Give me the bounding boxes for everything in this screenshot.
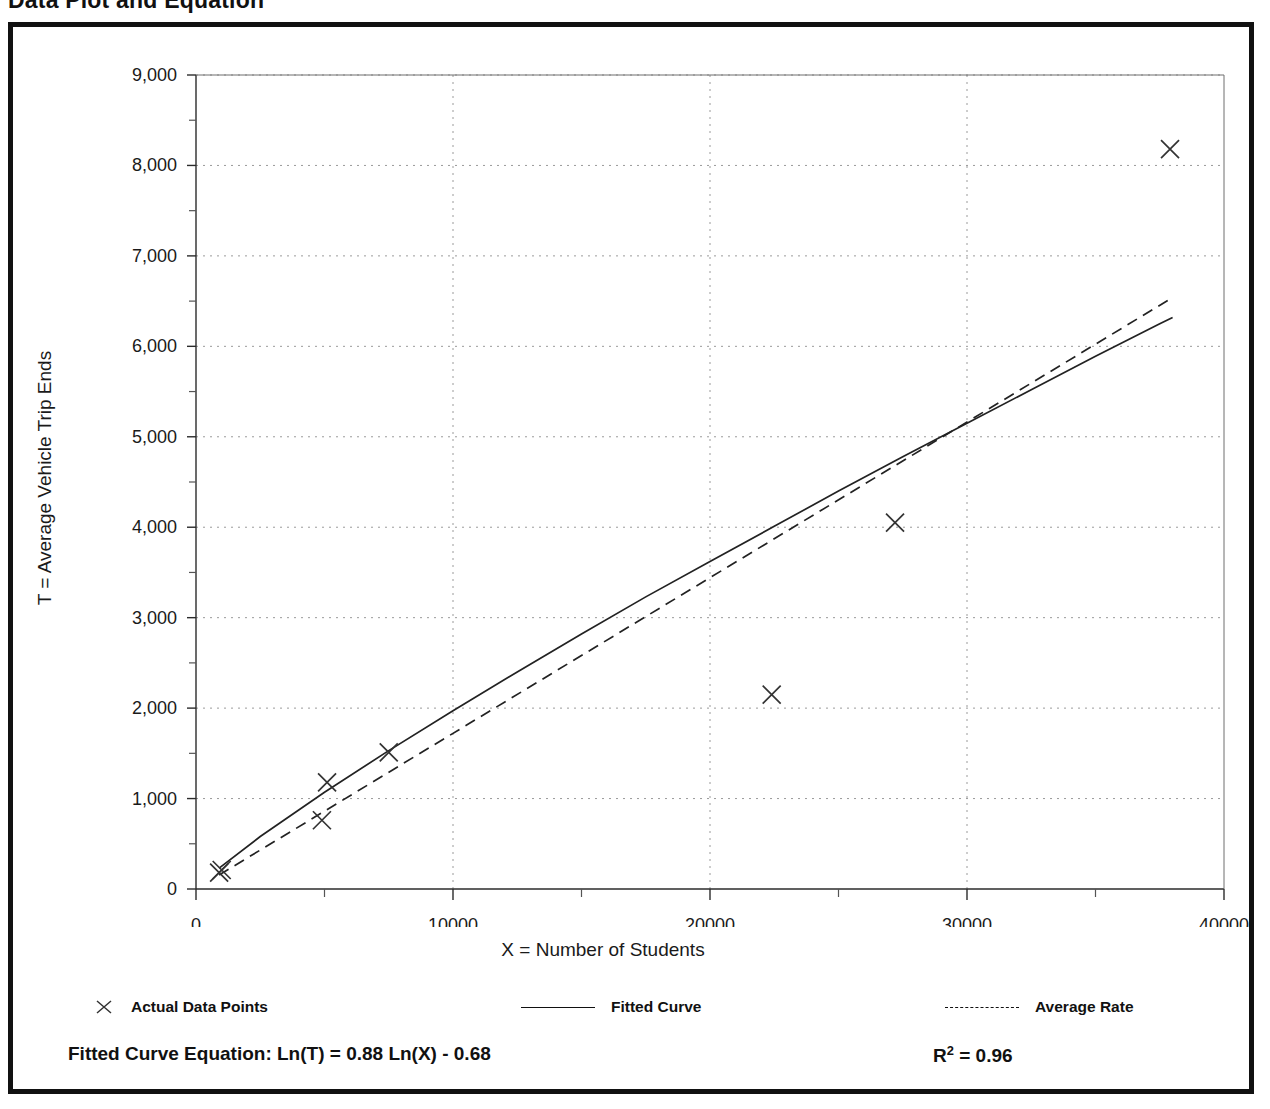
r-squared-value: R2 = 0.96: [933, 1043, 1013, 1067]
axis-ticks: [187, 75, 1224, 900]
page-title: Data Plot and Equation: [8, 0, 264, 14]
series-actual-data-points: [210, 140, 1179, 882]
solid-line-icon: [521, 998, 595, 1016]
legend-label: Average Rate: [1035, 998, 1134, 1016]
scatter-plot: 01,0002,0003,0004,0005,0006,0007,0008,00…: [13, 27, 1259, 927]
svg-text:20000: 20000: [685, 915, 735, 927]
svg-text:30000: 30000: [942, 915, 992, 927]
r-squared-number: = 0.96: [954, 1045, 1013, 1066]
chart-area: 01,0002,0003,0004,0005,0006,0007,0008,00…: [13, 27, 1259, 1099]
series-average-rate: [219, 297, 1172, 874]
legend-label: Fitted Curve: [611, 998, 701, 1016]
y-axis-tick-labels: 01,0002,0003,0004,0005,0006,0007,0008,00…: [132, 65, 177, 899]
svg-text:0: 0: [167, 879, 177, 899]
svg-text:9,000: 9,000: [132, 65, 177, 85]
svg-text:0: 0: [191, 915, 201, 927]
chart-legend: Actual Data Points Fitted Curve Average …: [13, 993, 1259, 1027]
legend-item-fitted-curve: Fitted Curve: [521, 993, 701, 1021]
equation-row: Fitted Curve Equation: Ln(T) = 0.88 Ln(X…: [13, 1043, 1259, 1083]
svg-text:10000: 10000: [428, 915, 478, 927]
svg-text:8,000: 8,000: [132, 155, 177, 175]
gridlines: [196, 75, 1224, 889]
legend-label: Actual Data Points: [131, 998, 268, 1016]
r-squared-symbol: R: [933, 1045, 947, 1066]
svg-text:2,000: 2,000: [132, 698, 177, 718]
figure-frame: 01,0002,0003,0004,0005,0006,0007,0008,00…: [8, 22, 1254, 1094]
svg-text:40000: 40000: [1199, 915, 1249, 927]
r-squared-exponent: 2: [947, 1043, 954, 1058]
legend-item-actual-data-points: Actual Data Points: [91, 993, 268, 1021]
fitted-curve-equation: Fitted Curve Equation: Ln(T) = 0.88 Ln(X…: [68, 1043, 491, 1065]
svg-text:5,000: 5,000: [132, 427, 177, 447]
x-axis-tick-labels: 010000200003000040000: [191, 915, 1249, 927]
series-fitted-curve: [219, 317, 1172, 868]
x-marker-icon: [91, 998, 117, 1016]
dashed-line-icon: [945, 998, 1019, 1016]
svg-text:6,000: 6,000: [132, 336, 177, 356]
svg-text:4,000: 4,000: [132, 517, 177, 537]
x-axis-title: X = Number of Students: [13, 939, 1193, 961]
svg-text:3,000: 3,000: [132, 608, 177, 628]
y-axis-title: T = Average Vehicle Trip Ends: [34, 218, 56, 738]
svg-text:1,000: 1,000: [132, 789, 177, 809]
legend-item-average-rate: Average Rate: [945, 993, 1134, 1021]
svg-text:7,000: 7,000: [132, 246, 177, 266]
